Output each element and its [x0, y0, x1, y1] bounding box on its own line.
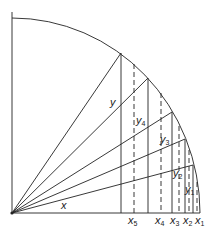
ray-y: [12, 53, 121, 213]
label-y3: y3: [160, 134, 169, 146]
label-y2: y2: [173, 168, 182, 180]
label-x4: x4: [155, 215, 164, 227]
label-x5: x5: [128, 215, 137, 227]
label-y: y: [110, 97, 116, 108]
ray-y1: [12, 165, 193, 213]
quarter-circle-diagram: x y y4 y3 y2 y1 x5 x4 x3 x2 x1: [0, 0, 214, 241]
label-y1: y1: [185, 184, 194, 196]
label-x3: x3: [170, 215, 179, 227]
ray-y4: [12, 78, 148, 213]
label-x2: x2: [183, 215, 192, 227]
ray-y2: [12, 139, 185, 213]
origin-point: [10, 211, 13, 214]
label-x: x: [61, 200, 67, 211]
label-y4: y4: [136, 115, 145, 127]
diagram-canvas: [0, 0, 214, 241]
label-x1: x1: [195, 215, 204, 227]
